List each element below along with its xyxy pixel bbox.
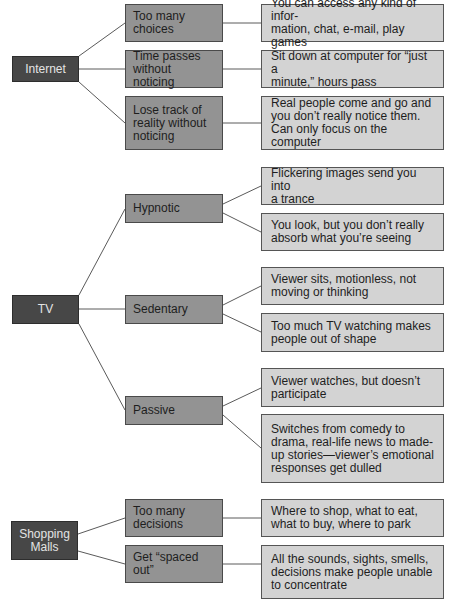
detail-hours-pass: Sit down at computer for “just a minute,…: [261, 50, 444, 88]
node-sedentary: Sedentary: [125, 295, 223, 324]
detail-text: Real people come and go and you don’t re…: [271, 97, 434, 149]
node-passive: Passive: [125, 396, 223, 425]
node-label: Shopping Malls: [19, 528, 70, 554]
detail-text: All the sounds, sights, smells, decision…: [271, 553, 432, 592]
node-lose-track: Lose track of reality without noticing: [125, 96, 223, 150]
detail-text: Too much TV watching makes people out of…: [271, 320, 431, 346]
detail-flickering: Flickering images send you into a trance: [261, 167, 444, 205]
node-internet: Internet: [12, 56, 79, 82]
detail-text: Flickering images send you into a trance: [271, 167, 434, 206]
node-label: Too many choices: [133, 10, 185, 36]
detail-where-to-shop: Where to shop, what to eat, what to buy,…: [261, 499, 444, 537]
node-too-many-choices: Too many choices: [125, 4, 223, 42]
node-label: Passive: [133, 404, 175, 417]
detail-text: Switches from comedy to drama, real-life…: [271, 423, 434, 475]
node-label: Time passes without noticing: [133, 50, 215, 89]
detail-text: Viewer sits, motionless, not moving or t…: [271, 273, 416, 299]
node-hypnotic: Hypnotic: [125, 194, 223, 223]
node-label: Internet: [25, 63, 66, 76]
node-tv: TV: [12, 295, 79, 324]
detail-text: Where to shop, what to eat, what to buy,…: [271, 505, 418, 531]
node-label: Too many decisions: [133, 505, 185, 531]
detail-viewer-sits: Viewer sits, motionless, not moving or t…: [261, 267, 444, 305]
node-label: Sedentary: [133, 303, 188, 316]
concept-map: Internet Too many choices Time passes wi…: [0, 0, 454, 615]
detail-real-people: Real people come and go and you don’t re…: [261, 96, 444, 150]
detail-you-look: You look, but you don’t really absorb wh…: [261, 213, 444, 251]
detail-text: You look, but you don’t really absorb wh…: [271, 219, 424, 245]
node-label: Get “spaced out”: [133, 551, 198, 577]
node-label: Lose track of reality without noticing: [133, 104, 206, 143]
detail-out-of-shape: Too much TV watching makes people out of…: [261, 313, 444, 352]
node-label: TV: [38, 303, 53, 316]
detail-access-info: You can access any kind of infor- mation…: [261, 4, 444, 42]
node-time-passes: Time passes without noticing: [125, 50, 223, 88]
detail-text: You can access any kind of infor- mation…: [271, 0, 434, 49]
node-label: Hypnotic: [133, 202, 180, 215]
detail-viewer-watches: Viewer watches, but doesn’t participate: [261, 368, 444, 407]
node-too-many-decisions: Too many decisions: [125, 499, 223, 537]
detail-text: Sit down at computer for “just a minute,…: [271, 50, 434, 89]
node-shopping-malls: Shopping Malls: [11, 521, 78, 560]
detail-switches: Switches from comedy to drama, real-life…: [261, 414, 444, 483]
detail-sounds-sights: All the sounds, sights, smells, decision…: [261, 545, 444, 599]
node-spaced-out: Get “spaced out”: [125, 545, 223, 583]
detail-text: Viewer watches, but doesn’t participate: [271, 375, 420, 401]
